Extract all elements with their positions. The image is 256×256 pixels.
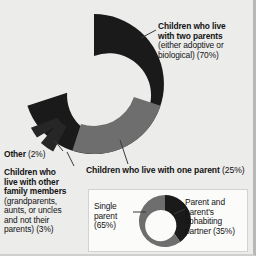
label-other-family-line4: (grandparents, xyxy=(4,196,57,206)
leader-line-two-parents xyxy=(141,30,156,38)
label-other-percent: (2%) xyxy=(28,149,45,159)
inset-panel: Single parent (65%) Parent and parent's … xyxy=(88,189,248,252)
label-other-text: Other xyxy=(4,149,26,159)
label-other-family-line7: parents) (3%) xyxy=(4,224,53,234)
label-other-family-line1: Children who xyxy=(4,167,56,177)
label-cohabiting: Parent and parent's cohabiting partner (… xyxy=(185,198,247,236)
label-other-family: Children who live with other family memb… xyxy=(4,168,82,235)
label-other: Other (2%) xyxy=(4,150,84,160)
label-single-parent-line2: parent xyxy=(94,211,117,221)
label-other-family-line5: aunts, or uncles xyxy=(4,205,62,215)
label-other-family-line3: family members xyxy=(4,186,66,196)
label-cohabiting-line4: partner (35%) xyxy=(185,226,235,236)
label-cohabiting-line3: cohabiting xyxy=(185,216,222,226)
label-other-family-line2: live with other xyxy=(4,177,59,187)
label-two-parents-line1: Children who live xyxy=(158,21,226,31)
label-two-parents-line2: with two parents xyxy=(158,31,222,41)
label-one-parent-text: Children who live with one parent xyxy=(86,165,220,175)
donut-segment-one-parent xyxy=(72,97,160,154)
label-one-parent-percent: (25%) xyxy=(222,165,244,175)
label-cohabiting-line2: parent's xyxy=(185,207,214,217)
label-one-parent: Children who live with one parent (25%) xyxy=(86,166,254,176)
label-two-parents: Children who live with two parents (eith… xyxy=(158,22,254,60)
label-single-parent: Single parent (65%) xyxy=(94,202,140,231)
label-single-parent-line1: Single xyxy=(94,201,117,211)
label-cohabiting-line1: Parent and xyxy=(185,197,225,207)
label-two-parents-line4: biological) (70%) xyxy=(158,50,219,60)
label-two-parents-line3: (either adoptive or xyxy=(158,40,224,50)
chart-figure: Children who live with two parents (eith… xyxy=(0,0,256,256)
label-other-family-line6: and not their xyxy=(4,215,49,225)
label-single-parent-line3: (65%) xyxy=(94,220,116,230)
